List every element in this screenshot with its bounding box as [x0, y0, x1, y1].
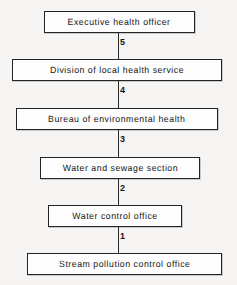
connector-line-1: [118, 227, 119, 253]
node-label: Division of local health service: [50, 66, 184, 75]
edge-label-2: 2: [120, 184, 125, 193]
connector-line-3: [118, 130, 119, 157]
edge-label-1: 1: [120, 232, 125, 241]
node-label: Water and sewage section: [62, 164, 177, 173]
edge-label-5: 5: [120, 38, 125, 47]
connector-line-4: [118, 81, 119, 108]
connector-line-2: [118, 179, 119, 205]
edge-label-3: 3: [120, 135, 125, 144]
node-water-and-sewage-section[interactable]: Water and sewage section: [40, 157, 200, 179]
node-executive-health-officer[interactable]: Executive health officer: [44, 11, 195, 33]
node-label: Water control office: [72, 212, 157, 221]
connector-line-5: [118, 33, 119, 59]
edge-label-4: 4: [120, 86, 125, 95]
node-water-control-office[interactable]: Water control office: [48, 205, 182, 227]
node-division-of-local-health-service[interactable]: Division of local health service: [12, 59, 222, 81]
node-label: Stream pollution control office: [59, 260, 190, 269]
node-stream-pollution-control-office[interactable]: Stream pollution control office: [27, 253, 222, 275]
node-label: Executive health officer: [68, 18, 171, 27]
node-bureau-of-environmental-health[interactable]: Bureau of environmental health: [16, 108, 218, 130]
flowchart-diagram: 5 4 3 2 1 Executive health officer Divis…: [0, 0, 237, 285]
node-label: Bureau of environmental health: [48, 115, 185, 124]
